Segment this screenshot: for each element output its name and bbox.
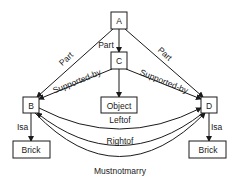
- edge-a-d-part: [125, 29, 203, 97]
- label-c-b-supported-by: Supported-by: [51, 67, 103, 96]
- label-a-d-part: Part: [156, 45, 175, 63]
- svg-text:A: A: [116, 16, 122, 26]
- label-mustnotmarry: Mustnotmarry: [94, 166, 147, 176]
- node-a: A: [111, 12, 127, 29]
- label-a-c-part: Part: [98, 40, 114, 50]
- svg-text:C: C: [116, 56, 122, 66]
- svg-text:Object: Object: [107, 101, 132, 111]
- label-leftof: Leftof: [109, 115, 131, 125]
- node-brick-left: Brick: [13, 141, 50, 158]
- svg-text:B: B: [28, 101, 34, 111]
- node-d: D: [201, 97, 217, 113]
- label-c-d-supported-by: Supported-by: [139, 67, 191, 96]
- svg-text:D: D: [206, 101, 212, 111]
- label-rightof: Rightof: [107, 136, 135, 146]
- node-object: Object: [101, 97, 137, 113]
- svg-text:Brick: Brick: [22, 145, 42, 155]
- node-c: C: [111, 52, 127, 69]
- svg-text:Brick: Brick: [199, 145, 219, 155]
- semantic-network-diagram: Part Part Part Supported-by Supported-by…: [0, 0, 237, 184]
- label-isa-left: Isa: [17, 122, 29, 132]
- label-isa-right: Isa: [211, 122, 223, 132]
- node-b: B: [23, 97, 39, 113]
- node-brick-right: Brick: [189, 141, 226, 158]
